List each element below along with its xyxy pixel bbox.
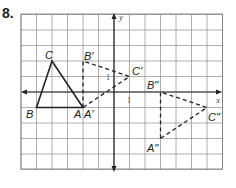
vertex-label-c-prime: C' <box>132 65 143 77</box>
vertex-label-b-double-prime: B" <box>147 79 159 91</box>
triangle-a-double-prime <box>161 92 208 139</box>
x-tick-label: 1 <box>127 96 131 105</box>
vertex-label-a: A <box>73 108 81 120</box>
x-axis-left-arrow-icon <box>21 90 27 95</box>
y-tick-label: 1 <box>106 73 110 82</box>
triangle-a-prime <box>83 61 130 108</box>
coordinate-grid-figure: y x 1 1 C B A A' B' C' B" C" A" <box>0 0 236 188</box>
x-axis-label: x <box>215 95 220 105</box>
vertex-label-c-double-prime: C" <box>208 111 221 123</box>
triangle-abc <box>37 61 84 108</box>
vertex-label-a-prime: A' <box>83 108 94 120</box>
y-axis-label: y <box>118 12 123 22</box>
x-axis-right-arrow-icon <box>216 90 222 95</box>
vertex-label-c: C <box>45 49 53 61</box>
vertex-label-b-prime: B' <box>84 50 94 62</box>
vertex-label-b: B <box>26 108 33 120</box>
vertex-label-a-double-prime: A" <box>146 142 159 154</box>
